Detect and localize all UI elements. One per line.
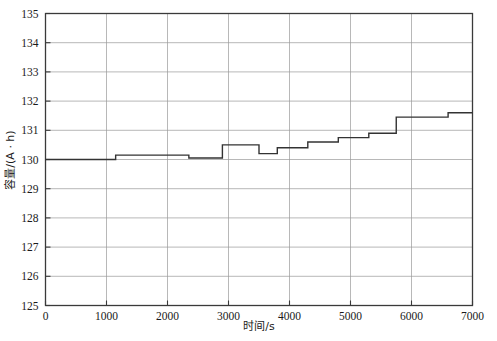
- y-axis-tick-label: 131: [21, 124, 39, 136]
- y-axis-tick-label: 130: [21, 154, 39, 166]
- x-axis-tick-label: 3000: [217, 310, 240, 322]
- x-axis-tick-label: 5000: [339, 310, 362, 322]
- y-axis-tick-label: 126: [21, 270, 39, 282]
- y-axis-tick-label: 127: [21, 241, 39, 253]
- y-axis-tick-label: 135: [21, 8, 39, 20]
- capacity-step-line: [46, 113, 473, 160]
- data-series-layer: [46, 113, 473, 160]
- x-axis-tick-label: 2000: [156, 310, 179, 322]
- chart-canvas: 1251261271281291301311321331341350100020…: [0, 0, 497, 341]
- x-axis-tick-label: 0: [43, 310, 49, 322]
- capacity-vs-time-chart: 1251261271281291301311321331341350100020…: [0, 0, 497, 341]
- y-axis-tick-label: 129: [21, 183, 39, 195]
- y-axis-tick-label: 133: [21, 66, 39, 78]
- x-axis-tick-label: 4000: [278, 310, 301, 322]
- x-axis-title: 时间/s: [243, 320, 275, 333]
- axis-tick-labels: 1251261271281291301311321331341350100020…: [21, 8, 484, 322]
- x-axis-tick-label: 6000: [400, 310, 423, 322]
- y-axis-tick-label: 128: [21, 212, 39, 224]
- x-axis-tick-label: 1000: [95, 310, 118, 322]
- y-axis-title: 容量/(A · h): [3, 130, 17, 189]
- y-axis-tick-label: 125: [21, 300, 39, 312]
- x-axis-tick-label: 7000: [461, 310, 484, 322]
- y-axis-tick-label: 132: [21, 95, 39, 107]
- y-axis-tick-label: 134: [21, 37, 39, 49]
